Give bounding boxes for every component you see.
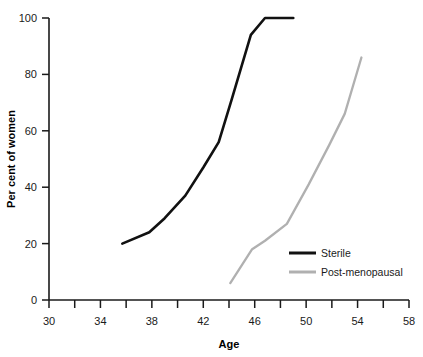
- x-tick-label: 50: [300, 315, 312, 327]
- y-tick-label: 100: [19, 12, 37, 24]
- y-tick-label: 40: [25, 181, 37, 193]
- y-axis-title: Per cent of women: [5, 110, 17, 208]
- x-tick-label: 38: [146, 315, 158, 327]
- chart-background: [0, 0, 423, 357]
- x-tick-label: 54: [351, 315, 363, 327]
- x-tick-label: 30: [43, 315, 55, 327]
- y-tick-label: 20: [25, 238, 37, 250]
- legend-label-post-menopausal: Post-menopausal: [321, 266, 403, 278]
- y-tick-label: 80: [25, 68, 37, 80]
- chart-figure: 020406080100 3034384246505458 Age Per ce…: [0, 0, 423, 357]
- y-tick-label: 60: [25, 125, 37, 137]
- y-tick-label: 0: [31, 294, 37, 306]
- x-tick-label: 46: [249, 315, 261, 327]
- x-tick-label: 58: [403, 315, 415, 327]
- legend-label-sterile: Sterile: [321, 247, 351, 259]
- x-tick-label: 34: [94, 315, 106, 327]
- line-chart: 020406080100 3034384246505458 Age Per ce…: [0, 0, 423, 357]
- x-axis-title: Age: [219, 338, 240, 350]
- x-tick-label: 42: [197, 315, 209, 327]
